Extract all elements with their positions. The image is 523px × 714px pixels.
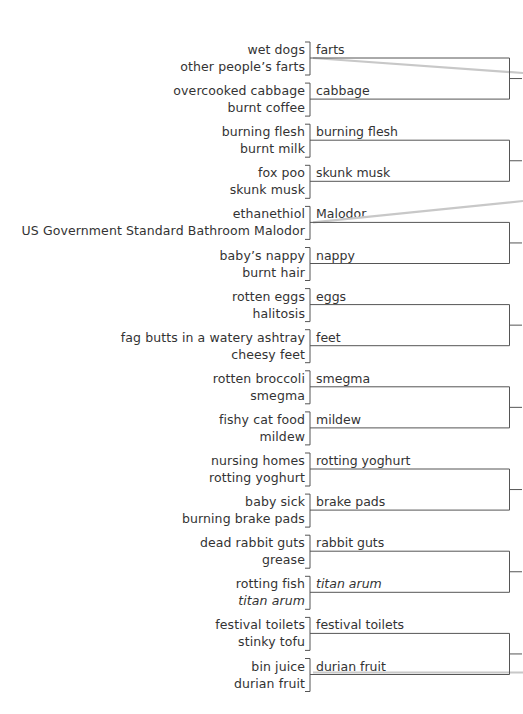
bracket-lines (0, 0, 523, 714)
highlight-path (313, 201, 523, 222)
highlight-path (313, 58, 523, 73)
tournament-bracket: wet dogsother people’s fartsfartsovercoo… (0, 0, 523, 714)
